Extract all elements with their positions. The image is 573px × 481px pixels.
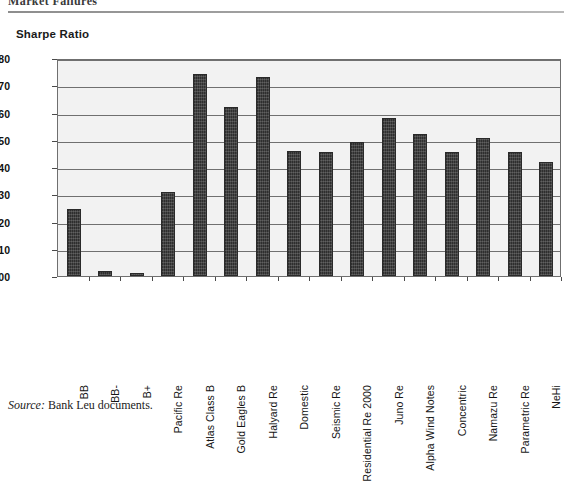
x-axis-tick-label: Parametric Re bbox=[519, 385, 531, 453]
y-axis-tick-label: 0.50 bbox=[0, 135, 10, 147]
y-axis-tick-label: 0.20 bbox=[0, 217, 10, 229]
bar bbox=[193, 74, 207, 276]
bar bbox=[508, 152, 522, 276]
x-axis-tick-mark bbox=[183, 277, 184, 281]
y-axis-tick-label: 0.10 bbox=[0, 244, 10, 256]
x-axis-labels: BBBB-B+Pacific ReAtlas Class BGold Eagle… bbox=[57, 283, 561, 388]
x-axis-tick-mark bbox=[215, 277, 216, 281]
y-axis-tick-label: 0.60 bbox=[0, 108, 10, 120]
x-axis-tick-mark bbox=[435, 277, 436, 281]
bar bbox=[130, 273, 144, 276]
x-axis-tick-mark bbox=[278, 277, 279, 281]
bar bbox=[161, 192, 175, 276]
y-axis-tick-label: 0.30 bbox=[0, 189, 10, 201]
y-axis-tick-label: 0.00 bbox=[0, 271, 10, 283]
x-axis-tick-label: Halyard Re bbox=[267, 385, 279, 439]
x-axis-ticks bbox=[57, 277, 561, 282]
plot-area bbox=[57, 59, 561, 277]
bar bbox=[67, 209, 81, 276]
x-axis-tick-label: B+ bbox=[141, 385, 153, 398]
x-axis-tick-mark bbox=[120, 277, 121, 281]
source-note: Source: Bank Leu documents. bbox=[8, 398, 153, 413]
x-axis-tick-label: Concentric bbox=[456, 385, 468, 436]
x-axis-tick-mark bbox=[530, 277, 531, 281]
x-axis-tick-label: Residential Re 2000 bbox=[361, 385, 373, 481]
bar bbox=[413, 134, 427, 276]
bar bbox=[476, 138, 490, 276]
bar bbox=[445, 152, 459, 276]
header-rule bbox=[8, 11, 564, 13]
source-text: Bank Leu documents. bbox=[48, 398, 153, 412]
x-axis-tick-mark bbox=[341, 277, 342, 281]
x-axis-tick-label: Atlas Class B bbox=[204, 385, 216, 449]
y-axis-tick-label: 0.70 bbox=[0, 80, 10, 92]
bar bbox=[98, 271, 112, 276]
bar bbox=[287, 151, 301, 276]
x-axis-tick-label: Juno Re bbox=[393, 385, 405, 425]
x-axis-tick-mark bbox=[498, 277, 499, 281]
bar bbox=[319, 152, 333, 276]
x-axis-tick-label: Gold Eagles B bbox=[235, 385, 247, 453]
bar bbox=[224, 107, 238, 276]
x-axis-tick-mark bbox=[372, 277, 373, 281]
y-axis-tick-label: 0.80 bbox=[0, 53, 10, 65]
x-axis-tick-mark bbox=[309, 277, 310, 281]
x-axis-tick-label: Namazu Re bbox=[487, 385, 499, 441]
chart-title: Sharpe Ratio bbox=[16, 28, 89, 40]
x-axis-tick-mark bbox=[152, 277, 153, 281]
bar bbox=[382, 118, 396, 276]
bar bbox=[539, 162, 553, 276]
x-axis-tick-mark bbox=[404, 277, 405, 281]
bar bbox=[256, 77, 270, 276]
x-axis-tick-label: Pacific Re bbox=[172, 385, 184, 433]
bar bbox=[350, 142, 364, 276]
y-axis-tick-label: 0.40 bbox=[0, 162, 10, 174]
x-axis-tick-mark bbox=[89, 277, 90, 281]
x-axis-tick-label: Seismic Re bbox=[330, 385, 342, 439]
x-axis-tick-label: Alpha Wind Notes bbox=[424, 385, 436, 471]
x-axis-tick-mark bbox=[467, 277, 468, 281]
x-axis-tick-label: Domestic bbox=[298, 385, 310, 430]
bar-series bbox=[58, 60, 560, 276]
running-head: Market Failures bbox=[8, 0, 268, 6]
x-axis-tick-label: NeHi bbox=[550, 385, 562, 409]
x-axis-tick-mark bbox=[246, 277, 247, 281]
x-axis-tick-mark bbox=[561, 277, 562, 281]
source-label: Source: bbox=[8, 398, 45, 412]
